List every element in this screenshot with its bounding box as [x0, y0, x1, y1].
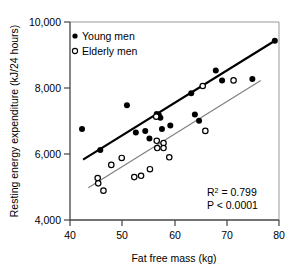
x-tick-label-80: 80 [273, 229, 285, 241]
data-point [142, 128, 148, 134]
y-tick-label-4000: 4,000 [35, 214, 61, 226]
y-tick-label-6000: 6,000 [35, 148, 61, 160]
data-point [119, 155, 124, 160]
r-squared-annotation: R2 = 0.799 [207, 186, 257, 198]
x-tick-label-40: 40 [64, 229, 76, 241]
r-squared-value: = 0.799 [219, 186, 257, 198]
data-point [161, 145, 166, 150]
y-axis-title: Resting energy expenditure (kJ/24 hours) [8, 25, 20, 218]
x-tick-label-70: 70 [221, 229, 233, 241]
data-point [109, 162, 114, 167]
data-point [155, 145, 160, 150]
data-point [200, 83, 205, 88]
data-point [167, 123, 173, 129]
y-tick-label-8000: 8,000 [35, 82, 61, 94]
data-point [231, 78, 236, 83]
data-point [219, 77, 225, 83]
data-point [167, 155, 172, 160]
data-point [124, 102, 130, 108]
data-point [147, 166, 152, 171]
data-point [138, 173, 143, 178]
statistics-annotation: R2 = 0.799 P < 0.0001 [207, 186, 258, 211]
data-point [203, 128, 208, 133]
legend-label-young-men: Young men [82, 30, 135, 42]
data-point [192, 111, 198, 117]
data-point [154, 114, 159, 119]
data-point [213, 68, 219, 74]
legend-marker-elderly-men [72, 48, 77, 53]
x-axis-title: Fat free mass (kg) [131, 252, 216, 264]
data-point [133, 130, 139, 136]
data-point [97, 147, 103, 153]
data-point [159, 126, 165, 132]
data-point [101, 188, 106, 193]
y-tick-label-10000: 10,000 [29, 16, 61, 28]
x-tick-label-50: 50 [116, 229, 128, 241]
data-point [154, 138, 159, 143]
data-point [188, 90, 194, 96]
data-point [196, 118, 202, 124]
legend-marker-young-men [72, 33, 77, 38]
data-point [146, 135, 152, 141]
data-point [132, 174, 137, 179]
data-point [79, 126, 85, 132]
p-value-annotation: P < 0.0001 [207, 199, 258, 211]
x-tick-label-60: 60 [169, 229, 181, 241]
data-point [96, 181, 101, 186]
data-point [272, 38, 278, 44]
legend-label-elderly-men: Elderly men [82, 45, 138, 57]
scatter-plot: 10,000 8,000 6,000 4,000 40 50 60 70 80 … [0, 0, 292, 270]
chart-figure: 10,000 8,000 6,000 4,000 40 50 60 70 80 … [0, 0, 292, 270]
chart-background [0, 0, 292, 270]
data-point [95, 175, 100, 180]
data-point [249, 76, 255, 82]
